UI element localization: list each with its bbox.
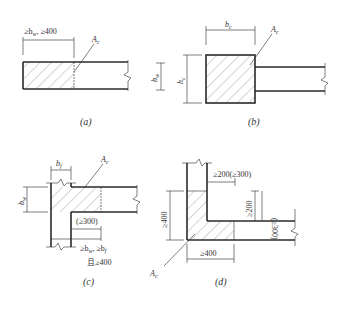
- panel-c-caption: (c): [83, 276, 95, 288]
- panel-d-top-dim: ≥200(≥300): [213, 170, 251, 179]
- panel-d-ac-label: Ac: [149, 269, 158, 279]
- panel-d-bottom-dim: ≥400: [200, 249, 216, 258]
- structural-diagram: ≥bw, ≥400 Ac bw (a) bc hc Ac (b): [0, 0, 347, 309]
- panel-a-caption: (a): [80, 116, 92, 128]
- panel-b-caption: (b): [248, 116, 260, 128]
- break-line-icon: [124, 60, 131, 91]
- panel-c-bottom-dim-2: 且≥400: [87, 258, 111, 267]
- panel-a: ≥bw, ≥400 Ac bw (a): [23, 27, 165, 128]
- panel-a-ac-label: Ac: [91, 35, 100, 45]
- panel-b-ac-label: Ac: [270, 25, 279, 35]
- panel-b-hatched-area: [206, 55, 255, 103]
- panel-a-top-dim: ≥bw, ≥400: [24, 27, 57, 37]
- panel-b-left-dim: hc: [176, 77, 186, 84]
- panel-d-left-dim: ≥400: [160, 212, 169, 228]
- panel-d: ≥200(≥300) ≥400 ≥200 (≥300) ≥400 Ac (d): [149, 159, 298, 288]
- panel-d-right-dim-b: (≥300): [270, 218, 279, 240]
- panel-b: bc hc Ac (b): [176, 20, 328, 128]
- panel-b-top-dim: bc: [225, 20, 232, 30]
- panel-c-ac-label: Ac: [100, 155, 109, 165]
- panel-c-top-dim: bf: [56, 159, 63, 169]
- break-line-icon: [133, 185, 140, 214]
- panel-d-hatched-area: [187, 191, 234, 240]
- panel-c-inner-dim: (≥300): [76, 217, 98, 226]
- panel-a-hatched-area: [23, 62, 74, 89]
- panel-d-right-dim-a: ≥200: [245, 201, 254, 217]
- panel-c-bottom-dim: ≥bw, ≥bf: [80, 244, 108, 254]
- panel-c-hatched-area: [51, 187, 101, 212]
- panel-c: bf bw Ac (≥300) ≥bw, ≥bf 且≥400 (c): [17, 155, 140, 288]
- panel-d-caption: (d): [215, 276, 227, 288]
- panel-c-left-dim: bw: [17, 197, 27, 205]
- panel-a-right-dim: bw: [150, 74, 160, 82]
